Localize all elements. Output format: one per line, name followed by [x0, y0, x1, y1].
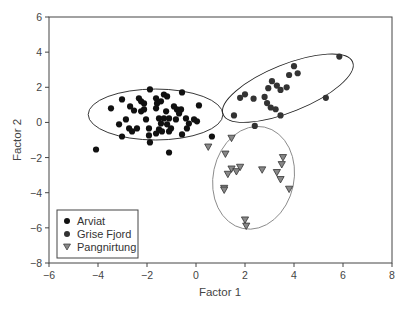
- x-tick-label: 4: [291, 269, 297, 281]
- point-arviat: [209, 133, 215, 139]
- legend-label-pangnirtung: Pangnirtung: [77, 241, 136, 253]
- y-tick-label: −4: [30, 187, 42, 199]
- x-axis-title: Factor 1: [199, 286, 241, 298]
- point-grise-fjord: [277, 87, 283, 93]
- point-grise-fjord: [231, 112, 237, 118]
- y-tick-label: −8: [30, 257, 42, 269]
- point-arviat: [179, 89, 185, 95]
- point-arviat: [141, 106, 147, 112]
- point-arviat: [93, 146, 99, 152]
- point-arviat: [147, 139, 153, 145]
- x-tick-label: 6: [340, 269, 346, 281]
- point-grise-fjord: [273, 106, 279, 112]
- point-arviat: [119, 133, 125, 139]
- point-grise-fjord: [252, 123, 258, 129]
- scatter-chart: −6−4−202468 −8−6−4−20246 Factor 1 Factor…: [0, 0, 407, 311]
- ellipse-pangnirtung: [203, 119, 304, 237]
- y-axis-ticks: −8−6−4−20246: [30, 11, 49, 269]
- y-tick-label: 6: [36, 11, 42, 23]
- x-tick-label: 2: [242, 269, 248, 281]
- point-pangnirtung: [228, 135, 235, 141]
- x-tick-label: 0: [193, 269, 199, 281]
- point-grise-fjord: [250, 96, 256, 102]
- point-arviat: [119, 96, 125, 102]
- point-arviat: [173, 116, 179, 122]
- x-tick-label: 8: [389, 269, 395, 281]
- point-pangnirtung: [241, 217, 248, 223]
- point-grise-fjord: [323, 95, 329, 101]
- point-pangnirtung: [222, 151, 229, 157]
- point-arviat: [141, 100, 147, 106]
- point-grise-fjord: [262, 94, 268, 100]
- point-arviat: [166, 128, 172, 134]
- x-tick-label: −2: [141, 269, 153, 281]
- point-arviat: [146, 132, 152, 138]
- legend-label-grise-fjord: Grise Fjord: [77, 228, 131, 240]
- legend-arviat-icon: [64, 218, 70, 224]
- point-pangnirtung: [273, 170, 280, 176]
- x-tick-label: −4: [92, 269, 104, 281]
- point-pangnirtung: [278, 162, 285, 168]
- point-arviat: [153, 130, 159, 136]
- point-arviat: [166, 149, 172, 155]
- legend-grise-fjord-icon: [64, 231, 70, 237]
- point-grise-fjord: [295, 70, 301, 76]
- point-pangnirtung: [205, 144, 212, 150]
- point-grise-fjord: [269, 78, 275, 84]
- point-arviat: [146, 125, 152, 131]
- point-arviat: [164, 93, 170, 99]
- data-points: [93, 53, 342, 229]
- point-arviat: [179, 131, 185, 137]
- point-grise-fjord: [237, 95, 243, 101]
- y-tick-label: −6: [30, 222, 42, 234]
- point-grise-fjord: [286, 72, 292, 78]
- point-grise-fjord: [291, 63, 297, 69]
- point-grise-fjord: [284, 84, 290, 90]
- point-arviat: [184, 125, 190, 131]
- point-arviat: [194, 118, 200, 124]
- point-pangnirtung: [259, 167, 266, 173]
- point-grise-fjord: [277, 112, 283, 118]
- y-axis-title: Factor 2: [11, 119, 23, 161]
- point-arviat: [116, 121, 122, 127]
- point-arviat: [123, 116, 129, 122]
- point-pangnirtung: [277, 177, 284, 183]
- point-arviat: [134, 125, 140, 131]
- point-arviat: [153, 105, 159, 111]
- point-pangnirtung: [233, 169, 240, 175]
- y-tick-label: −2: [30, 152, 42, 164]
- x-tick-label: −6: [43, 269, 55, 281]
- point-arviat: [196, 102, 202, 108]
- point-arviat: [143, 116, 149, 122]
- point-grise-fjord: [336, 53, 342, 59]
- confidence-ellipses: [88, 40, 361, 237]
- y-tick-label: 0: [36, 116, 42, 128]
- point-arviat: [166, 115, 172, 121]
- legend-label-arviat: Arviat: [77, 215, 105, 227]
- point-arviat: [163, 108, 169, 114]
- point-pangnirtung: [221, 187, 228, 193]
- point-arviat: [147, 86, 153, 92]
- x-axis-ticks: −6−4−202468: [43, 263, 395, 281]
- point-pangnirtung: [279, 155, 286, 161]
- point-pangnirtung: [224, 171, 231, 177]
- point-arviat: [176, 110, 182, 116]
- legend: Arviat Grise Fjord Pangnirtung: [57, 210, 138, 258]
- point-arviat: [158, 98, 164, 104]
- point-arviat: [159, 128, 165, 134]
- y-tick-label: 4: [36, 46, 42, 58]
- y-tick-label: 2: [36, 81, 42, 93]
- point-arviat: [131, 107, 137, 113]
- point-arviat: [108, 105, 114, 111]
- point-grise-fjord: [265, 85, 271, 91]
